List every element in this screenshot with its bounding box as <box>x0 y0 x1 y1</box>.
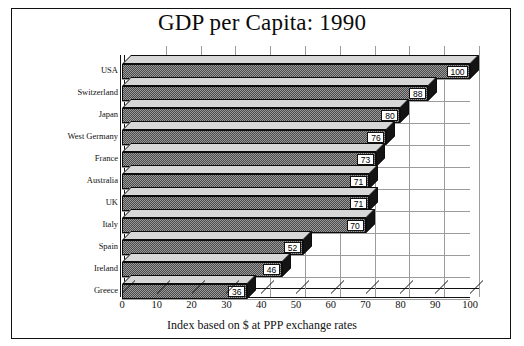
bar-spain <box>122 231 303 246</box>
x-tick-connector <box>296 280 309 294</box>
x-tick-connector <box>400 280 413 294</box>
chart-page: GDP per Capita: 1990 Index based on $ at… <box>0 0 524 346</box>
value-label: 46 <box>263 264 280 275</box>
bar-australia <box>122 165 369 180</box>
x-tick-connector <box>366 280 379 294</box>
value-label: 100 <box>447 66 468 77</box>
value-label: 80 <box>381 110 398 121</box>
bar-top-face <box>122 99 409 108</box>
x-tick-40: 40 <box>246 299 276 310</box>
x-tick-100: 100 <box>455 299 485 310</box>
gridline <box>479 46 480 297</box>
gridline <box>444 46 445 297</box>
bar-west-germany <box>122 121 386 136</box>
x-tick-80: 80 <box>385 299 415 310</box>
bar-uk <box>122 187 369 202</box>
bar-italy <box>122 209 366 224</box>
x-tick-50: 50 <box>281 299 311 310</box>
bar-top-face <box>122 121 395 130</box>
category-label-italy: Italy <box>32 220 118 229</box>
x-axis-title: Index based on $ at PPP exchange rates <box>0 318 524 333</box>
x-tick-30: 30 <box>211 299 241 310</box>
bar-top-face <box>122 143 385 152</box>
bar-top-face <box>122 231 312 240</box>
category-label-japan: Japan <box>32 110 118 119</box>
x-tick-90: 90 <box>420 299 450 310</box>
bar-top-face <box>122 55 479 64</box>
bar-switzerland <box>122 77 428 92</box>
x-tick-connector <box>470 280 483 294</box>
x-tick-20: 20 <box>177 299 207 310</box>
value-label: 73 <box>357 154 374 165</box>
bar-france <box>122 143 376 158</box>
category-label-france: France <box>32 154 118 163</box>
x-tick-60: 60 <box>316 299 346 310</box>
value-label: 52 <box>284 242 301 253</box>
category-label-spain: Spain <box>32 242 118 251</box>
category-label-switzerland: Switzerland <box>32 88 118 97</box>
value-label: 88 <box>409 88 426 99</box>
category-label-west-germany: West Germany <box>32 132 118 141</box>
x-tick-connector <box>435 280 448 294</box>
bar-top-face <box>122 187 378 196</box>
value-label: 71 <box>350 198 367 209</box>
bar-top-face <box>122 209 375 218</box>
category-label-uk: UK <box>32 198 118 207</box>
bar-top-face <box>122 77 437 86</box>
category-label-ireland: Ireland <box>32 264 118 273</box>
x-tick-connector <box>261 280 274 294</box>
bar-ireland <box>122 253 282 268</box>
plot-area: Index based on $ at PPP exchange rates U… <box>0 0 524 346</box>
x-tick-10: 10 <box>142 299 172 310</box>
category-label-australia: Australia <box>32 176 118 185</box>
value-label: 70 <box>347 220 364 231</box>
bar-top-face <box>122 253 291 262</box>
bar-top-face <box>122 165 378 174</box>
category-label-greece: Greece <box>32 286 118 295</box>
x-tick-connector <box>331 280 344 294</box>
bar-usa <box>122 55 470 70</box>
x-tick-0: 0 <box>107 299 137 310</box>
value-label: 71 <box>350 176 367 187</box>
bar-japan <box>122 99 400 114</box>
category-label-usa: USA <box>32 66 118 75</box>
value-label: 76 <box>367 132 384 143</box>
x-tick-70: 70 <box>351 299 381 310</box>
